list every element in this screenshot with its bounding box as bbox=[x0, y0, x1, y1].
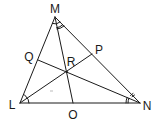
incenter-point-R bbox=[66, 71, 68, 73]
label-Q: Q bbox=[24, 51, 33, 63]
label-R: R bbox=[67, 56, 76, 68]
label-P: P bbox=[95, 44, 103, 56]
label-M: M bbox=[50, 3, 60, 15]
bisector-NQ bbox=[38, 60, 140, 103]
angle-mark-L-inner bbox=[23, 95, 25, 96]
label-L: L bbox=[9, 99, 16, 111]
label-N: N bbox=[143, 100, 152, 112]
label-O: O bbox=[68, 109, 77, 121]
angle-mark-N-1 bbox=[128, 98, 129, 103]
angle-mark-N-2 bbox=[126, 98, 127, 104]
